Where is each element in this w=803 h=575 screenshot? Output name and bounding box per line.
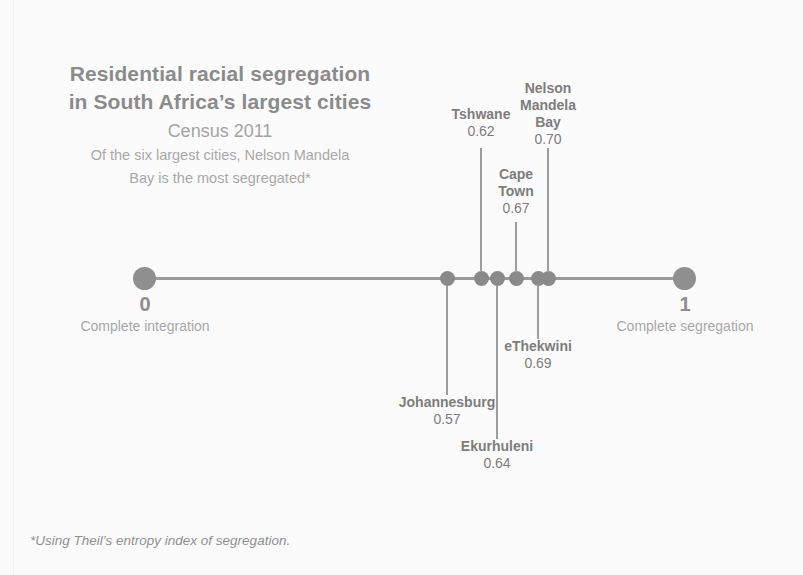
data-point-name: eThekwini xyxy=(458,338,618,355)
data-point-dot xyxy=(490,271,505,286)
axis-caption-left: Complete integration xyxy=(75,316,215,336)
data-point-value: 0.69 xyxy=(458,355,618,372)
data-point-callout: NelsonMandelaBay0.70 xyxy=(498,80,598,148)
data-point-name: Johannesburg xyxy=(357,394,537,411)
data-point-value: 0.64 xyxy=(417,455,577,472)
chart-subtitle: Census 2011 xyxy=(30,118,410,144)
data-point-leader-line xyxy=(515,222,517,272)
axis-label-left: 0 Complete integration xyxy=(75,292,215,336)
data-point-callout: Ekurhuleni0.64 xyxy=(417,438,577,472)
data-point-name: Ekurhuleni xyxy=(417,438,577,455)
chart-description-line-1: Of the six largest cities, Nelson Mandel… xyxy=(30,144,410,167)
data-point-leader-line xyxy=(537,286,539,339)
chart-figure: Residential racial segregation in South … xyxy=(0,0,803,575)
page-title-line-2: in South Africa’s largest cities xyxy=(30,88,410,116)
data-point-leader-line xyxy=(446,286,448,395)
data-point-callout: eThekwini0.69 xyxy=(458,338,618,372)
data-point-name: Mandela xyxy=(498,97,598,114)
axis-caption-right: Complete segregation xyxy=(615,316,755,336)
data-point-name: Town xyxy=(476,183,556,200)
data-point-leader-line xyxy=(547,148,549,272)
axis-endpoint-dot-one xyxy=(673,267,696,290)
data-point-dot xyxy=(509,271,524,286)
data-point-dot xyxy=(440,271,455,286)
page-title-line-1: Residential racial segregation xyxy=(30,60,410,88)
data-point-callout: CapeTown0.67 xyxy=(476,166,556,217)
axis-value-one: 1 xyxy=(615,292,755,316)
chart-title-block: Residential racial segregation in South … xyxy=(30,60,410,190)
data-point-name: Bay xyxy=(498,114,598,131)
data-point-value: 0.70 xyxy=(498,131,598,148)
data-point-value: 0.67 xyxy=(476,200,556,217)
data-point-dot xyxy=(474,271,489,286)
frame-divider xyxy=(13,0,14,575)
data-point-dot xyxy=(541,271,556,286)
axis-line xyxy=(145,277,685,280)
data-point-value: 0.57 xyxy=(357,411,537,428)
data-point-name: Cape xyxy=(476,166,556,183)
axis-value-zero: 0 xyxy=(75,292,215,316)
axis-endpoint-dot-zero xyxy=(133,267,156,290)
data-point-callout: Johannesburg0.57 xyxy=(357,394,537,428)
data-point-name: Nelson xyxy=(498,80,598,97)
chart-description-line-2: Bay is the most segregated* xyxy=(30,167,410,190)
chart-footnote: *Using Theil’s entropy index of segregat… xyxy=(30,533,290,548)
axis-label-right: 1 Complete segregation xyxy=(615,292,755,336)
